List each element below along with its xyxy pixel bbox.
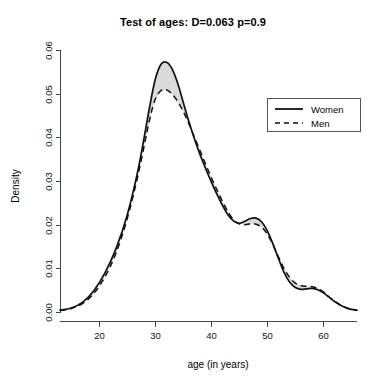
x-tick-label: 50 xyxy=(262,330,273,341)
y-tick-label: 0.03 xyxy=(43,172,54,191)
y-axis: 0.000.010.020.030.040.050.06 xyxy=(43,41,61,322)
y-tick-label: 0.00 xyxy=(43,303,54,322)
y-axis-title: Density xyxy=(10,169,21,202)
x-axis: 2030405060 xyxy=(60,322,357,341)
y-tick-label: 0.01 xyxy=(43,259,54,278)
x-tick-label: 60 xyxy=(318,330,329,341)
chart-canvas: 0.000.010.020.030.040.050.06 2030405060 … xyxy=(0,0,386,392)
legend-label-women: Women xyxy=(311,104,344,115)
y-tick-label: 0.02 xyxy=(43,216,54,235)
density-plot-figure: Test of ages: D=0.063 p=0.9 0.000.010.02… xyxy=(0,0,386,392)
y-tick-label: 0.05 xyxy=(43,85,54,104)
x-tick-label: 40 xyxy=(206,330,217,341)
legend-label-men: Men xyxy=(311,118,329,129)
x-tick-label: 20 xyxy=(94,330,105,341)
chart-legend: Women Men xyxy=(268,99,361,132)
x-tick-label: 30 xyxy=(150,330,161,341)
y-tick-label: 0.06 xyxy=(43,41,54,60)
x-axis-title: age (in years) xyxy=(187,359,248,370)
y-tick-label: 0.04 xyxy=(43,128,54,147)
